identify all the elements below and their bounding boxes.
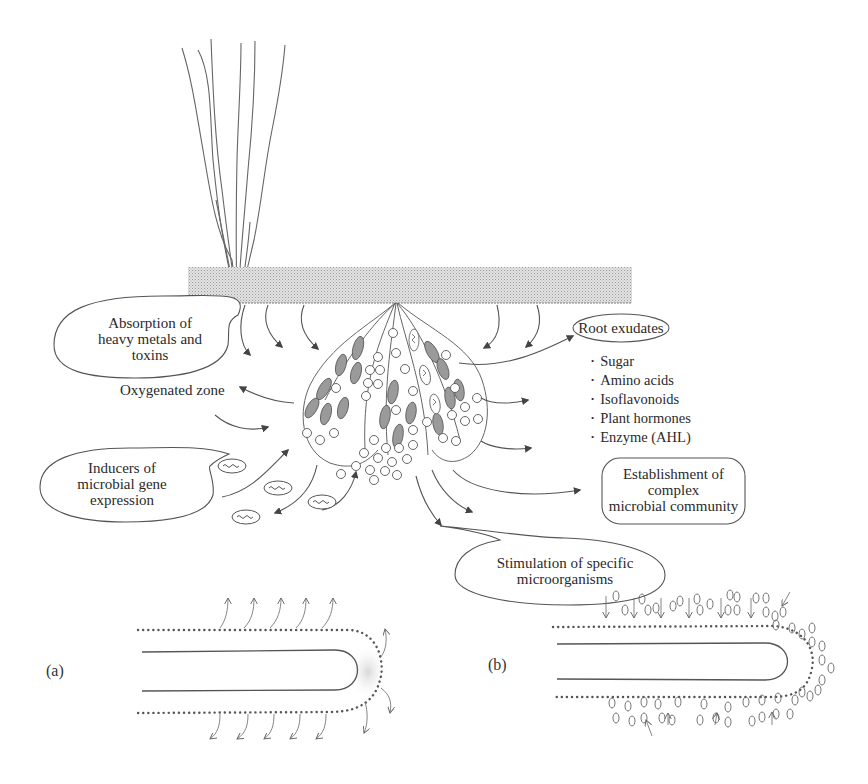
exudate-item: Sugar — [591, 353, 691, 372]
panel-b-label: (b) — [488, 656, 507, 674]
absorption-line-1: Absorption of — [80, 315, 220, 331]
panel-b-microbes-bottom — [609, 687, 805, 727]
panel-a-root — [138, 598, 391, 739]
exudate-item: Isoflavonoids — [591, 391, 691, 410]
establishment-callout-text: Establishment of complex microbial commu… — [602, 466, 745, 514]
stimulation-line-1: Stimulation of specific — [480, 555, 650, 571]
root-exudates-label: Root exudates — [573, 320, 669, 336]
establishment-line-3: microbial community — [602, 498, 745, 514]
inducers-line-1: Inducers of — [62, 460, 182, 476]
absorption-callout-text: Absorption of heavy metals and toxins — [80, 315, 220, 363]
plant-shoots — [182, 39, 285, 300]
establishment-line-2: complex — [602, 482, 745, 498]
establishment-line-1: Establishment of — [602, 466, 745, 482]
stimulation-line-2: microorganisms — [480, 571, 650, 587]
stimulation-callout-text: Stimulation of specific microorganisms — [480, 555, 650, 587]
exudate-item: Amino acids — [591, 372, 691, 391]
oxygenated-zone-label: Oxygenated zone — [120, 382, 225, 398]
inducers-callout-text: Inducers of microbial gene expression — [62, 460, 182, 508]
absorption-line-2: heavy metals and — [80, 331, 220, 347]
root-cells-filled — [302, 335, 466, 449]
panel-b-root — [553, 590, 834, 736]
exudate-item: Plant hormones — [591, 410, 691, 429]
inducers-line-2: microbial gene — [62, 476, 182, 492]
root-exudates-list: Sugar Amino acids Isoflavonoids Plant ho… — [591, 353, 691, 448]
panel-b-microbes-top — [613, 590, 834, 701]
soil-surface-band — [188, 267, 632, 303]
exudate-item: Enzyme (AHL) — [591, 429, 691, 448]
inducers-line-3: expression — [62, 492, 182, 508]
microbe-cells — [218, 459, 336, 524]
panel-a-label: (a) — [46, 662, 64, 680]
absorption-line-3: toxins — [80, 347, 220, 363]
